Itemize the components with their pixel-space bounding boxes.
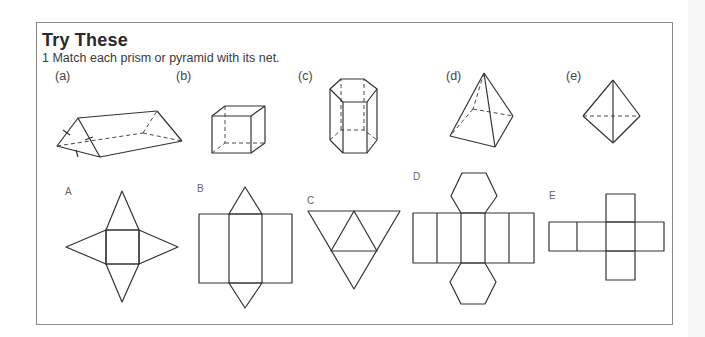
square-pyramid-figure bbox=[450, 73, 513, 147]
cube-figure bbox=[212, 106, 265, 153]
net-c-figure bbox=[308, 211, 400, 289]
net-b-figure bbox=[199, 187, 292, 308]
net-a-figure bbox=[66, 191, 178, 302]
tetrahedron-figure bbox=[583, 80, 640, 143]
figures bbox=[0, 0, 705, 337]
net-e-figure bbox=[549, 194, 664, 280]
triangular-prism-figure bbox=[57, 111, 182, 157]
hexagonal-prism-figure bbox=[330, 79, 377, 153]
net-d-figure bbox=[413, 173, 534, 304]
